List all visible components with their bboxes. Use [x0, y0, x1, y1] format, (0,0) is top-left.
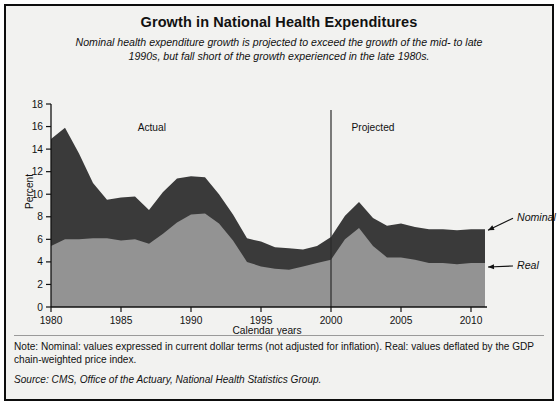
chart-figure: Growth in National Health Expenditures N… — [0, 0, 558, 405]
y-tick-label: 16 — [32, 121, 44, 132]
y-tick-label: 6 — [37, 234, 43, 245]
y-tick-label: 2 — [37, 279, 43, 290]
y-tick-label: 4 — [37, 256, 43, 267]
chart-source: Source: CMS, Office of the Actuary, Nati… — [14, 374, 544, 385]
footer-divider — [14, 335, 544, 336]
area-chart-svg: 0246810121416181980198519901995200020052… — [0, 0, 558, 340]
y-tick-label: 18 — [32, 99, 44, 110]
y-tick-label: 0 — [37, 302, 43, 313]
nominal-callout: Nominal — [517, 211, 557, 223]
real-callout-arrow-head — [488, 264, 494, 269]
projected-label: Projected — [351, 122, 394, 133]
actual-label: Actual — [138, 122, 166, 133]
real-callout: Real — [517, 259, 539, 271]
y-tick-label: 8 — [37, 211, 43, 222]
y-axis-title: Percent — [24, 152, 35, 232]
chart-note: Note: Nominal: values expressed in curre… — [14, 341, 544, 366]
